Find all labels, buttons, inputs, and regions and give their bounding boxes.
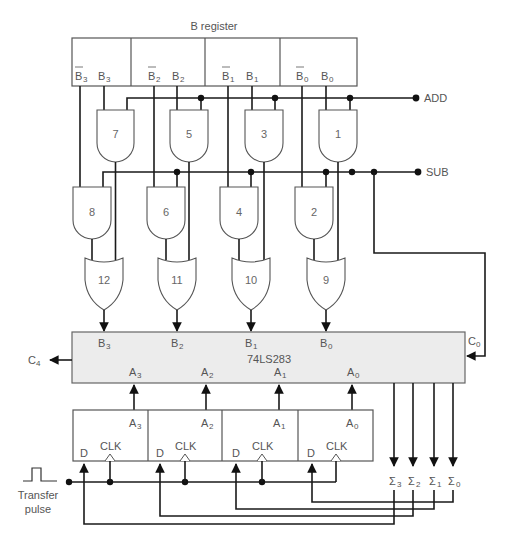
svg-text:10: 10 [245,274,257,286]
b-register-title: B register [190,20,237,32]
a2-clk-label: CLK [175,440,197,452]
sum0-label: Σ [448,475,455,487]
svg-text:1: 1 [335,128,341,140]
and-gate-4: 4 [220,187,258,239]
c4-label: C [28,354,36,366]
adder-74ls283: B 3 B 2 B 1 B 0 74LS283 A 3 A 2 A 1 A 0 … [28,332,481,383]
svg-text:3: 3 [137,422,142,431]
adder-a0-label: A [347,366,355,378]
svg-text:3: 3 [397,480,402,489]
svg-text:4: 4 [36,359,41,368]
b3-label: B [98,70,105,82]
adder-subtractor-diagram: B register B 3 B 3 B 2 B 2 B 1 B 1 [0,0,507,541]
b1-bar-label: B [222,70,229,82]
svg-text:1: 1 [253,342,258,351]
sub-terminal [415,169,422,176]
sum1-label: Σ [429,475,436,487]
svg-text:1: 1 [230,75,235,84]
svg-text:2: 2 [156,75,161,84]
adder-b3-label: B [98,337,105,349]
a1-d-label: D [232,447,240,459]
svg-text:1: 1 [282,371,287,380]
svg-text:8: 8 [89,206,95,218]
a3-out-label: A [129,417,137,429]
a0-clk-label: CLK [326,440,348,452]
svg-text:6: 6 [163,206,169,218]
sum2-label: Σ [408,475,415,487]
svg-text:9: 9 [323,274,329,286]
a2-d-label: D [156,447,164,459]
svg-text:3: 3 [261,128,267,140]
svg-text:1: 1 [254,75,259,84]
and-gate-5: 5 [170,110,208,162]
a3-d-label: D [80,447,88,459]
adder-a1-label: A [274,366,282,378]
svg-text:2: 2 [179,342,184,351]
b0-bar-label: B [296,70,303,82]
b-register-box [72,38,357,86]
svg-text:4: 4 [236,206,242,218]
and-gate-1: 1 [319,110,357,162]
and-gate-6: 6 [147,187,185,239]
a1-clk-label: CLK [252,440,274,452]
sub-label: SUB [426,166,449,178]
svg-text:0: 0 [354,422,359,431]
svg-text:2: 2 [416,480,421,489]
svg-text:0: 0 [304,75,309,84]
adder-b1-label: B [245,337,252,349]
svg-text:0: 0 [329,75,334,84]
svg-text:2: 2 [209,422,214,431]
or-gate-9: 9 [307,258,345,310]
b-register: B register B 3 B 3 B 2 B 2 B 1 B 1 [72,20,357,86]
or-gate-12: 12 [85,258,123,310]
svg-text:11: 11 [171,274,182,286]
svg-text:3: 3 [137,371,142,380]
svg-text:7: 7 [112,128,118,140]
svg-text:12: 12 [98,274,110,286]
svg-text:0: 0 [456,480,461,489]
sum3-label: Σ [389,475,396,487]
add-terminal [413,95,420,102]
b2-label: B [172,70,179,82]
svg-text:5: 5 [186,128,192,140]
add-label: ADD [424,92,447,104]
a0-d-label: D [307,447,315,459]
and-gate-7: 7 [97,110,134,162]
svg-text:0: 0 [476,340,481,349]
or-gate-10: 10 [232,258,270,310]
b0-label: B [321,70,328,82]
svg-text:1: 1 [437,480,442,489]
a2-out-label: A [201,417,209,429]
adder-b2-label: B [171,337,178,349]
svg-text:0: 0 [355,371,360,380]
a1-out-label: A [273,417,281,429]
and-gate-3: 3 [245,110,283,162]
svg-text:2: 2 [311,206,317,218]
adder-a2-label: A [201,366,209,378]
svg-text:3: 3 [106,75,111,84]
pulse-label: pulse [25,503,51,515]
a0-out-label: A [346,417,354,429]
and-gate-2: 2 [295,187,333,239]
a3-clk-label: CLK [100,440,122,452]
svg-text:3: 3 [83,75,88,84]
and-gate-8: 8 [73,187,111,239]
b1-label: B [246,70,253,82]
transfer-label: Transfer [18,489,59,501]
a-to-adder-wires [134,385,352,410]
transfer-pulse: Transfer pulse [18,461,336,515]
svg-text:1: 1 [281,422,286,431]
c0-label: C [468,335,476,347]
add-control-line: ADD [127,92,447,110]
svg-text:0: 0 [328,342,333,351]
b3-bar-label: B [75,70,82,82]
svg-text:2: 2 [180,75,185,84]
svg-text:2: 2 [209,371,214,380]
b2-bar-label: B [148,70,155,82]
or-gate-11: 11 [158,258,196,310]
and-gates-bottom: 8 6 4 2 [73,187,333,260]
a-register: A 3 D CLK A 2 D CLK A 1 D CLK A 0 D CLK [73,410,373,461]
adder-a3-label: A [129,366,137,378]
svg-text:3: 3 [106,342,111,351]
pulse-icon [23,468,57,481]
